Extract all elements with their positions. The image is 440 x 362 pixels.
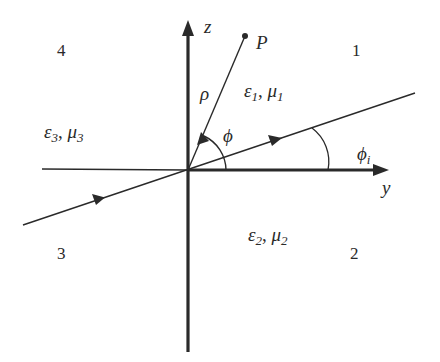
phi-i-label: ϕi xyxy=(357,143,371,167)
z-axis-label: z xyxy=(203,16,212,37)
region-2-label: 2 xyxy=(350,244,359,263)
medium-2-label: ε2, μ2 xyxy=(248,224,288,248)
y-axis-arrowhead-icon xyxy=(373,164,389,176)
z-axis-arrowhead-icon xyxy=(182,20,194,36)
phi-i-arc xyxy=(312,128,329,170)
rho-label: ρ xyxy=(199,83,209,104)
ray-direction-arrow-icon xyxy=(268,135,282,146)
rho-line xyxy=(188,36,245,170)
point-p-label: P xyxy=(255,32,268,53)
em-geometry-diagram: z y P ρ ϕ ϕi 1 2 3 4 ε1, μ1 ε2, μ2 ε3, μ… xyxy=(0,0,440,362)
medium-3-label: ε3, μ3 xyxy=(44,121,84,145)
ray-direction-arrow-icon xyxy=(92,194,105,205)
phi-i-base: ϕ xyxy=(357,143,367,164)
medium-1-label: ε1, μ1 xyxy=(244,80,284,104)
region-1-label: 1 xyxy=(352,41,361,60)
y-axis-label: y xyxy=(380,177,391,198)
point-p-marker xyxy=(242,33,248,39)
phi-label: ϕ xyxy=(223,125,233,146)
interface-line-left xyxy=(42,169,188,170)
phi-i-subscript: i xyxy=(367,152,371,167)
region-3-label: 3 xyxy=(57,244,66,263)
region-4-label: 4 xyxy=(57,41,66,60)
